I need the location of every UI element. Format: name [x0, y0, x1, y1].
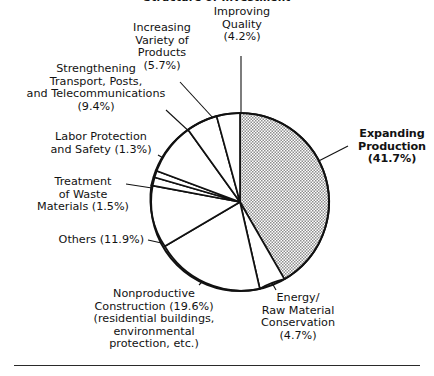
- bottom-divider: [14, 365, 420, 366]
- label-energy-raw-material: Energy/ Raw Material Conservation (4.7%): [244, 292, 352, 342]
- label-improving-quality: Improving Quality (4.2%): [196, 6, 288, 44]
- label-others: Others (11.9%): [20, 234, 144, 247]
- label-expanding-production: Expanding Production (41.7%): [352, 128, 432, 166]
- label-strengthening-transport: Strengthening Transport, Posts, and Tele…: [8, 63, 184, 113]
- label-nonproductive-construction: Nonproductive Construction (19.6%) (resi…: [78, 288, 230, 351]
- leader-increasing-variety: [180, 82, 214, 119]
- label-treatment-waste: Treatment of Waste Materials (1.5%): [22, 176, 144, 214]
- label-labor-protection: Labor Protection and Safety (1.3%): [18, 131, 184, 156]
- pie-chart-figure: Structure of Investment: [0, 0, 434, 376]
